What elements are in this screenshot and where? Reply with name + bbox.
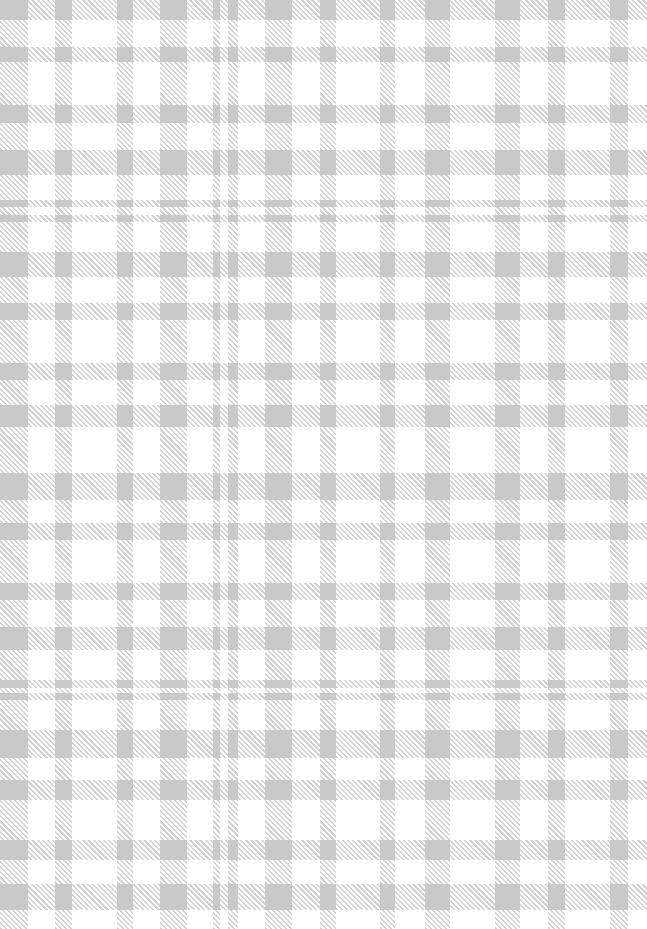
stripe-intersection bbox=[160, 523, 187, 540]
stripe-intersection bbox=[320, 215, 336, 222]
stripe-intersection bbox=[380, 583, 395, 600]
stripe-intersection bbox=[0, 252, 28, 277]
stripe-intersection bbox=[228, 523, 238, 540]
plaid-pattern: Gray and white plaid (tartan/gingham) te… bbox=[0, 0, 647, 929]
stripe-intersection bbox=[0, 0, 28, 20]
stripe-intersection bbox=[495, 780, 520, 800]
stripe-intersection bbox=[0, 150, 28, 175]
stripe-intersection bbox=[160, 884, 187, 910]
stripe-intersection bbox=[117, 405, 133, 427]
stripe-intersection bbox=[495, 680, 520, 688]
stripe-intersection bbox=[265, 215, 292, 222]
stripe-intersection bbox=[265, 150, 292, 175]
stripe-intersection bbox=[213, 303, 220, 320]
stripe-intersection bbox=[0, 105, 28, 123]
stripe-intersection bbox=[320, 105, 336, 123]
stripe-intersection bbox=[425, 693, 450, 700]
stripe-intersection bbox=[320, 252, 336, 277]
stripe-intersection bbox=[495, 0, 520, 20]
stripe-intersection bbox=[610, 150, 628, 175]
stripe-intersection bbox=[0, 47, 28, 62]
stripe-intersection bbox=[265, 303, 292, 320]
stripe-intersection bbox=[380, 252, 395, 277]
stripe-intersection bbox=[425, 405, 450, 427]
stripe-intersection bbox=[213, 780, 220, 800]
stripe-intersection bbox=[320, 0, 336, 20]
stripe-intersection bbox=[548, 627, 565, 650]
stripe-intersection bbox=[213, 215, 220, 222]
stripe-intersection bbox=[425, 150, 450, 175]
stripe-intersection bbox=[495, 730, 520, 758]
stripe-intersection bbox=[320, 363, 336, 380]
stripe-intersection bbox=[213, 363, 220, 380]
stripe-intersection bbox=[425, 47, 450, 62]
stripe-intersection bbox=[380, 693, 395, 700]
stripe-intersection bbox=[160, 105, 187, 123]
stripe-intersection bbox=[320, 150, 336, 175]
stripe-intersection bbox=[213, 47, 220, 62]
stripe-intersection bbox=[228, 473, 238, 500]
stripe-intersection bbox=[160, 693, 187, 700]
stripe-intersection bbox=[548, 780, 565, 800]
stripe-intersection bbox=[265, 680, 292, 688]
stripe-intersection bbox=[0, 680, 28, 688]
stripe-intersection bbox=[548, 730, 565, 758]
stripe-intersection bbox=[548, 473, 565, 500]
stripe-intersection bbox=[160, 47, 187, 62]
stripe-intersection bbox=[213, 583, 220, 600]
stripe-intersection bbox=[380, 303, 395, 320]
stripe-intersection bbox=[610, 200, 628, 207]
stripe-intersection bbox=[117, 303, 133, 320]
stripe-intersection bbox=[117, 150, 133, 175]
stripe-intersection bbox=[495, 693, 520, 700]
stripe-intersection bbox=[320, 680, 336, 688]
stripe-intersection bbox=[265, 627, 292, 650]
stripe-intersection bbox=[548, 0, 565, 20]
stripe-intersection bbox=[55, 150, 72, 175]
stripe-intersection bbox=[228, 730, 238, 758]
stripe-intersection bbox=[265, 693, 292, 700]
stripe-intersection bbox=[495, 47, 520, 62]
stripe-intersection bbox=[425, 840, 450, 860]
stripe-intersection bbox=[160, 252, 187, 277]
stripe-intersection bbox=[117, 840, 133, 860]
stripe-intersection bbox=[0, 200, 28, 207]
stripe-intersection bbox=[55, 840, 72, 860]
stripe-intersection bbox=[117, 523, 133, 540]
stripe-intersection bbox=[228, 840, 238, 860]
stripe-intersection bbox=[548, 105, 565, 123]
stripe-intersection bbox=[425, 105, 450, 123]
stripe-intersection bbox=[55, 200, 72, 207]
stripe-intersection bbox=[548, 523, 565, 540]
stripe-intersection bbox=[425, 583, 450, 600]
stripe-intersection bbox=[160, 730, 187, 758]
stripe-intersection bbox=[320, 780, 336, 800]
stripe-intersection bbox=[495, 583, 520, 600]
stripe-intersection bbox=[213, 523, 220, 540]
stripe-intersection bbox=[495, 627, 520, 650]
stripe-intersection bbox=[228, 780, 238, 800]
stripe-intersection bbox=[228, 47, 238, 62]
stripe-intersection bbox=[213, 252, 220, 277]
stripe-intersection bbox=[610, 363, 628, 380]
stripe-intersection bbox=[117, 680, 133, 688]
stripe-intersection bbox=[548, 303, 565, 320]
stripe-intersection bbox=[495, 884, 520, 910]
stripe-intersection bbox=[55, 363, 72, 380]
stripe-intersection bbox=[380, 627, 395, 650]
stripe-intersection bbox=[320, 627, 336, 650]
stripe-intersection bbox=[610, 523, 628, 540]
stripe-intersection bbox=[320, 840, 336, 860]
stripe-intersection bbox=[0, 780, 28, 800]
stripe-intersection bbox=[320, 200, 336, 207]
stripe-intersection bbox=[228, 0, 238, 20]
stripe-intersection bbox=[265, 523, 292, 540]
stripe-intersection bbox=[425, 200, 450, 207]
stripe-intersection bbox=[495, 105, 520, 123]
stripe-intersection bbox=[228, 627, 238, 650]
stripe-intersection bbox=[380, 200, 395, 207]
stripe-intersection bbox=[228, 693, 238, 700]
stripe-intersection bbox=[610, 405, 628, 427]
stripe-intersection bbox=[265, 47, 292, 62]
stripe-intersection bbox=[213, 405, 220, 427]
